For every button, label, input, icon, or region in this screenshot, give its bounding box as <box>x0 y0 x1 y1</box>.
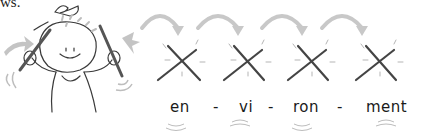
crossed-sticks-icon <box>158 46 200 80</box>
syllable-separator: - <box>337 98 342 116</box>
drumstick-icons <box>20 26 122 76</box>
syllable-1: en <box>170 98 190 116</box>
crossed-sticks-icon <box>288 46 328 80</box>
syllable-3: ron <box>293 98 319 116</box>
crossed-sticks-icon <box>356 46 396 80</box>
illustration <box>0 0 422 137</box>
curved-arrow-icon <box>4 32 140 56</box>
syllable-2: vi <box>239 98 253 116</box>
child-drummer-figure <box>24 6 120 112</box>
syllable-4: ment <box>366 98 407 116</box>
crossed-sticks-icon <box>224 46 264 80</box>
syllable-separator: - <box>213 98 218 116</box>
syllable-separator: - <box>268 98 273 116</box>
